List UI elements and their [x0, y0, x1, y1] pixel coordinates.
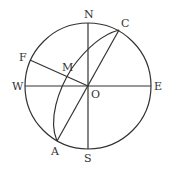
label-o: O — [91, 88, 100, 101]
label-c: C — [121, 17, 129, 30]
diagram-canvas: N C F M W O E A S — [0, 0, 171, 170]
label-s: S — [84, 152, 92, 165]
line-fo — [30, 60, 88, 86]
label-e: E — [154, 80, 162, 93]
label-a: A — [50, 145, 60, 158]
label-f: F — [19, 51, 27, 64]
label-w: W — [12, 80, 24, 93]
label-m: M — [62, 61, 73, 74]
label-n: N — [84, 8, 94, 21]
